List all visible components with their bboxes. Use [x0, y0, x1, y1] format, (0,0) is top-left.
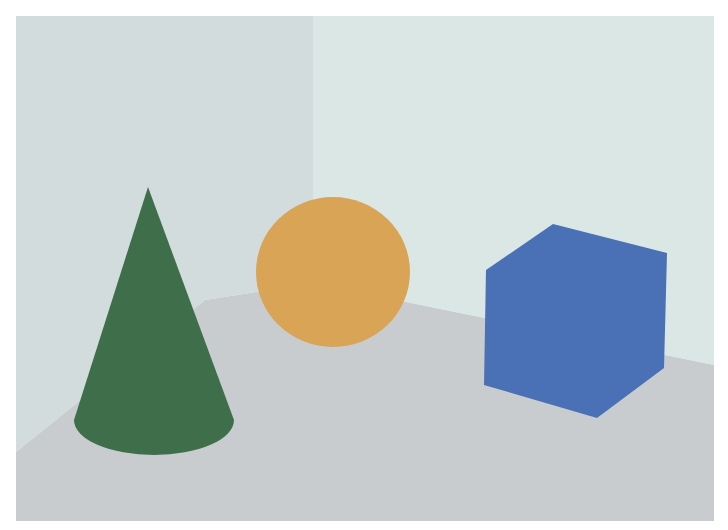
scene-canvas — [0, 0, 728, 530]
orange-sphere — [256, 197, 410, 347]
